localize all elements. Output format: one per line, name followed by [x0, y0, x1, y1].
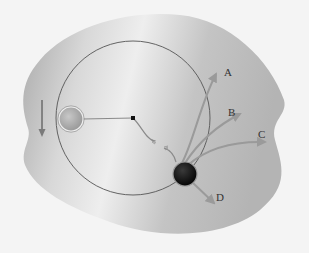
label-a: A — [224, 66, 232, 78]
label-b: B — [228, 106, 235, 118]
label-d: D — [216, 191, 224, 203]
circular-motion-diagram: A B C D — [0, 0, 309, 253]
ball-start-position — [59, 107, 83, 131]
center-pin — [131, 116, 135, 120]
label-c: C — [258, 128, 265, 140]
ball-release-position — [173, 162, 197, 186]
